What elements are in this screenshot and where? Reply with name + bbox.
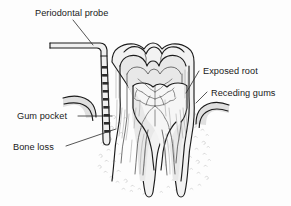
label-receding-gums: Receding gums (211, 88, 276, 98)
label-exposed-root: Exposed root (203, 66, 258, 76)
label-gum-pocket: Gum pocket (17, 111, 67, 121)
dental-diagram: Periodontal probe Exposed root Receding … (0, 0, 291, 206)
label-bone-loss: Bone loss (13, 142, 54, 152)
label-periodontal-probe: Periodontal probe (35, 8, 108, 18)
